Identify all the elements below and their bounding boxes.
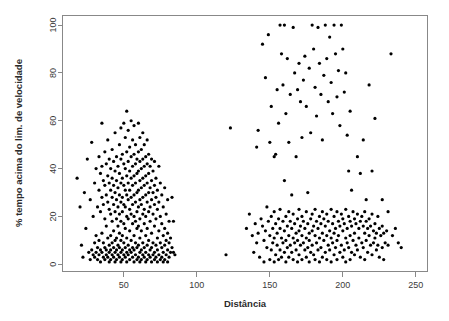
data-point — [115, 248, 118, 251]
data-point — [255, 145, 258, 148]
data-point — [350, 251, 353, 254]
data-point — [359, 220, 362, 223]
data-point — [293, 71, 296, 74]
data-point — [224, 253, 227, 256]
data-point — [131, 203, 134, 206]
data-point — [286, 57, 289, 60]
data-point — [280, 256, 283, 259]
data-point — [96, 246, 99, 249]
data-point — [144, 215, 147, 218]
data-point — [143, 208, 146, 211]
data-point — [328, 35, 331, 38]
data-point — [89, 258, 92, 261]
data-point — [163, 227, 166, 230]
data-point — [109, 258, 112, 261]
data-point — [106, 236, 109, 239]
data-point — [362, 246, 365, 249]
data-point — [274, 253, 277, 256]
data-point — [87, 251, 90, 254]
data-point — [138, 217, 141, 220]
data-point — [312, 253, 315, 256]
data-point — [276, 88, 279, 91]
data-point — [292, 236, 295, 239]
data-point — [300, 258, 303, 261]
data-point — [141, 177, 144, 180]
data-point — [309, 251, 312, 254]
data-point — [132, 260, 135, 263]
data-point — [366, 227, 369, 230]
data-point — [94, 234, 97, 237]
data-point — [156, 248, 159, 251]
data-point — [118, 193, 121, 196]
data-point — [375, 232, 378, 235]
data-point — [295, 155, 298, 158]
data-point — [267, 220, 270, 223]
data-point — [156, 236, 159, 239]
data-point — [338, 251, 341, 254]
data-point — [128, 189, 131, 192]
data-point — [373, 117, 376, 120]
data-point — [162, 234, 165, 237]
data-point — [124, 256, 127, 259]
data-point — [109, 189, 112, 192]
data-point — [109, 248, 112, 251]
data-point — [124, 227, 127, 230]
data-point — [331, 222, 334, 225]
data-point — [115, 258, 118, 261]
data-point — [313, 258, 316, 261]
data-point — [295, 248, 298, 251]
data-point — [121, 248, 124, 251]
data-point — [89, 198, 92, 201]
data-point — [132, 215, 135, 218]
data-point — [143, 222, 146, 225]
data-point — [362, 224, 365, 227]
data-point — [122, 241, 125, 244]
data-point — [124, 167, 127, 170]
data-point — [144, 193, 147, 196]
data-point — [372, 229, 375, 232]
data-point — [245, 227, 248, 230]
data-point — [163, 186, 166, 189]
data-point — [132, 193, 135, 196]
data-point — [324, 251, 327, 254]
data-point — [325, 234, 328, 237]
data-point — [80, 244, 83, 247]
data-point — [308, 260, 311, 263]
data-point — [125, 236, 128, 239]
y-tick-label: 100 — [49, 18, 59, 33]
data-point — [122, 162, 125, 165]
data-point — [280, 236, 283, 239]
data-point — [111, 177, 114, 180]
data-point — [316, 227, 319, 230]
data-point — [115, 155, 118, 158]
data-point — [118, 246, 121, 249]
data-point — [257, 129, 260, 132]
data-point — [165, 212, 168, 215]
data-point — [137, 224, 140, 227]
data-point — [289, 93, 292, 96]
data-point — [267, 33, 270, 36]
data-point — [305, 105, 308, 108]
data-point — [157, 253, 160, 256]
y-tick-label: 0 — [49, 262, 59, 267]
data-point — [128, 145, 131, 148]
data-point — [144, 155, 147, 158]
data-point — [97, 189, 100, 192]
data-point — [343, 248, 346, 251]
data-point — [106, 174, 109, 177]
data-point — [130, 212, 133, 215]
data-point — [122, 122, 125, 125]
data-point — [309, 217, 312, 220]
data-point — [127, 129, 130, 132]
data-point — [296, 260, 299, 263]
data-point — [100, 165, 103, 168]
data-point — [359, 256, 362, 259]
data-point — [132, 248, 135, 251]
data-point — [100, 251, 103, 254]
data-point — [287, 234, 290, 237]
data-point — [334, 246, 337, 249]
data-point — [146, 201, 149, 204]
data-point — [325, 57, 328, 60]
data-point — [131, 256, 134, 259]
data-point — [322, 217, 325, 220]
